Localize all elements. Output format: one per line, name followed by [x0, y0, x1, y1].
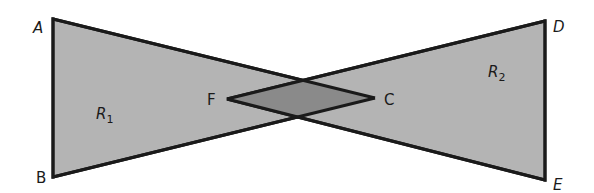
- point-label-f: F: [207, 91, 216, 109]
- region-r2-subscript: 2: [498, 71, 505, 84]
- region-r2-base: R: [488, 63, 498, 81]
- point-label-c: C: [384, 91, 394, 109]
- point-label-d: D: [553, 18, 565, 36]
- point-label-e: E: [553, 176, 563, 193]
- bowtie-diagram: A B D E F C R1 R2: [0, 0, 594, 193]
- region-r1-base: R: [96, 105, 106, 123]
- point-label-a: A: [32, 19, 43, 37]
- region-r1-subscript: 1: [106, 113, 113, 126]
- point-label-b: B: [36, 169, 46, 187]
